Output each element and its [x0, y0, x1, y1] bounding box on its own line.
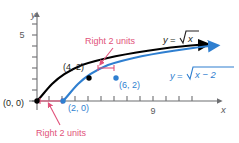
- x-tick-label-9: 9: [150, 106, 155, 116]
- curve-parent: [37, 45, 200, 101]
- equation-parent: y = x: [162, 31, 199, 45]
- label-origin: (0, 0): [3, 98, 24, 108]
- label-point-2-0: (2, 0): [68, 103, 89, 113]
- equation-parent-radicand: x: [187, 33, 194, 44]
- label-point-4-2: (4, 2): [63, 62, 84, 72]
- y-tick-label-5: 5: [19, 30, 24, 40]
- point-2-0: [60, 98, 65, 103]
- y-axis: [32, 16, 37, 110]
- annotation-bottom: [40, 98, 62, 125]
- note-right-2-units-top: Right 2 units: [85, 36, 136, 46]
- point-origin: [34, 98, 39, 103]
- x-axis: [29, 96, 218, 101]
- label-point-6-2: (6, 2): [119, 80, 140, 90]
- curve-shifted: [63, 46, 210, 101]
- graph-figure: y x 5 9 (0, 0) (4, 2) (6, 2) (2, 0) Righ…: [0, 0, 239, 143]
- y-axis-label: y: [30, 9, 37, 20]
- equation-shifted-radicand: x − 2: [194, 69, 217, 80]
- note-right-2-units-bottom: Right 2 units: [36, 128, 87, 138]
- equation-shifted-equals: =: [177, 70, 183, 81]
- equation-shifted-y: y: [169, 70, 176, 81]
- graph-canvas: y x 5 9 (0, 0) (4, 2) (6, 2) (2, 0) Righ…: [0, 0, 239, 143]
- point-4-2: [86, 75, 91, 80]
- equation-parent-y: y: [162, 34, 169, 45]
- point-6-2: [113, 75, 118, 80]
- x-axis-label: x: [220, 104, 227, 115]
- equation-parent-equals: =: [170, 34, 176, 45]
- equation-shifted: y = x − 2: [169, 67, 234, 81]
